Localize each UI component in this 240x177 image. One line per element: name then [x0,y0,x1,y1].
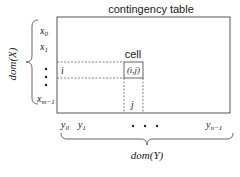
col-marker-j: j [129,99,134,110]
dom-x-label: dom(X) [6,47,19,80]
row-label-x1: x1 [39,41,48,54]
svg-text:x0: x0 [39,25,48,38]
svg-text:yn−1: yn−1 [205,119,222,132]
dom-y-label: dom(Y) [131,149,164,162]
row-ellipsis-dots [45,68,47,86]
row-marker-i: i [61,65,64,76]
cell-coords: (i,j) [127,65,140,75]
col-label-yn-1: yn−1 [205,119,222,132]
diagram-title: contingency table [108,3,194,15]
dom-x-brace [26,20,38,104]
col-label-y1: y1 [77,119,86,132]
cell-label: cell [125,48,142,60]
row-label-x0: x0 [39,25,48,38]
row-label-xm-1: xm−1 [36,93,55,106]
col-ellipsis-dots [132,125,158,127]
col-label-y0: y0 [60,119,69,132]
svg-text:y1: y1 [77,119,86,132]
svg-text:y0: y0 [60,119,69,132]
svg-text:x1: x1 [39,41,48,54]
table-rectangle [57,17,230,113]
svg-text:xm−1: xm−1 [36,93,55,106]
dom-y-brace [61,133,233,145]
contingency-table-diagram: contingency table cell (i,j) i j x0 x1 x… [0,0,240,177]
